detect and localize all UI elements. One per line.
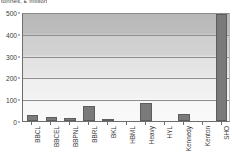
bar-slot: [155, 14, 174, 121]
x-tick-group: Kenton: [192, 122, 211, 153]
bar[interactable]: [140, 103, 152, 121]
bar-slot: [42, 14, 61, 121]
y-tick-label: 200: [6, 75, 17, 82]
bar-slot: [99, 14, 118, 121]
bar[interactable]: [46, 117, 58, 121]
bar[interactable]: [216, 14, 228, 121]
y-tick-label: 300: [6, 53, 17, 60]
x-tick-group: BBPNL: [60, 122, 79, 153]
y-tick-mark: [18, 78, 20, 79]
chart-caption: tonnes, £ million: [1, 0, 47, 5]
bar[interactable]: [64, 118, 76, 121]
x-tick-mark: [183, 122, 184, 125]
x-tick-label: SHO: [223, 126, 230, 140]
bar-slot: [118, 14, 137, 121]
bar-series: [23, 14, 229, 121]
y-axis: 0100200300400500: [0, 13, 20, 122]
bar-slot: [61, 14, 80, 121]
x-tick-group: HBML: [117, 122, 136, 153]
x-tick-group: Kennedy: [173, 122, 192, 153]
bar-slot: [23, 14, 42, 121]
x-tick-mark: [164, 122, 165, 125]
bar-slot: [193, 14, 212, 121]
x-tick-group: Heavy: [135, 122, 154, 153]
x-tick-mark: [202, 122, 203, 125]
y-tick-mark: [18, 56, 20, 57]
x-tick-mark: [69, 122, 70, 125]
bar[interactable]: [102, 119, 114, 121]
y-tick-label: 0: [13, 119, 17, 126]
bar-slot: [212, 14, 230, 121]
x-tick-mark: [88, 122, 89, 125]
y-tick-mark: [18, 13, 20, 14]
x-tick-mark: [145, 122, 146, 125]
bar-slot: [174, 14, 193, 121]
y-tick-mark: [18, 34, 20, 35]
x-tick-mark: [126, 122, 127, 125]
bar-slot: [80, 14, 99, 121]
x-tick-group: BBCEL: [41, 122, 60, 153]
x-tick-group: SHO: [211, 122, 230, 153]
y-tick-label: 400: [6, 31, 17, 38]
y-tick-mark: [18, 100, 20, 101]
y-tick-mark: [18, 122, 20, 123]
x-axis: BBCLBBCELBBPNLBBRLBKLHBMLHeavyHYLKennedy…: [22, 122, 230, 153]
x-tick-group: HYL: [154, 122, 173, 153]
bar-slot: [136, 14, 155, 121]
x-tick-mark: [107, 122, 108, 125]
x-tick-mark: [50, 122, 51, 125]
x-tick-group: BBCL: [22, 122, 41, 153]
y-tick-label: 500: [6, 10, 17, 17]
x-tick-mark: [221, 122, 222, 125]
x-tick-mark: [31, 122, 32, 125]
bar[interactable]: [178, 114, 190, 121]
bar[interactable]: [27, 115, 39, 121]
bar-chart: tonnes, £ million 0100200300400500 BBCLB…: [0, 0, 232, 153]
x-tick-group: BKL: [98, 122, 117, 153]
x-tick-group: BBRL: [79, 122, 98, 153]
bar[interactable]: [83, 106, 95, 121]
y-tick-label: 100: [6, 97, 17, 104]
plot-area: [22, 13, 230, 122]
